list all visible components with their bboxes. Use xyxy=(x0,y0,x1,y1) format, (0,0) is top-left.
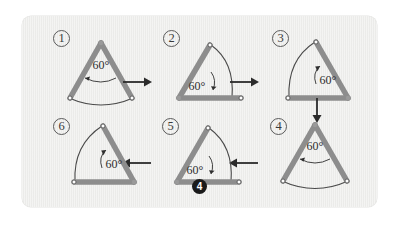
step-6-upper-tip xyxy=(101,124,105,128)
step-6-arc xyxy=(75,126,102,182)
figure-number-badge: 4 xyxy=(192,179,207,194)
step-2-lower-tip xyxy=(239,96,243,100)
step-1-angle-text: 60° xyxy=(93,58,110,72)
step-5-sweep-arrowhead xyxy=(209,170,215,174)
step-3-hinge xyxy=(346,96,350,100)
step-1-arc xyxy=(69,98,133,105)
step-1-left-tip xyxy=(68,96,72,100)
step-6-upper-leg xyxy=(103,126,134,182)
step-1-diagram: 1 60° xyxy=(46,28,156,114)
step-5-arc xyxy=(209,128,231,182)
step-6-diagram: 6 60° xyxy=(46,116,156,202)
step-2-sweep-arrowhead xyxy=(211,86,217,90)
step-4-right-tip xyxy=(345,179,349,183)
step-5-upper-tip xyxy=(206,126,210,130)
arrow-1-to-2 xyxy=(120,75,154,89)
step-3-upper-leg xyxy=(316,42,348,98)
step-1-hinge xyxy=(99,41,103,45)
step-1-sweep-arc xyxy=(85,78,116,82)
step-5-lower-tip xyxy=(237,180,241,184)
step-6-hinge xyxy=(132,180,136,184)
step-4-hinge xyxy=(313,123,317,127)
step-6-label: 6 xyxy=(53,118,70,135)
step-5-label: 5 xyxy=(162,118,179,135)
step-3-arc xyxy=(289,42,315,98)
step-6-angle-text: 60° xyxy=(106,157,123,171)
step-3-label: 3 xyxy=(272,30,289,47)
step-4-left-tip xyxy=(281,179,285,183)
step-4-left-leg xyxy=(283,125,315,181)
figure-root: 1 60° xyxy=(0,0,404,227)
step-2-diagram: 2 60° xyxy=(153,28,263,114)
step-4-sweep-arc xyxy=(300,159,330,163)
step-1-label: 1 xyxy=(53,30,70,47)
step-4-right-leg xyxy=(315,125,347,181)
step-2-angle-text: 60° xyxy=(189,79,206,93)
step-5-angle-text: 60° xyxy=(187,163,204,177)
step-2-label: 2 xyxy=(163,30,180,47)
arrow-2-to-3 xyxy=(227,75,261,89)
step-1-right-tip xyxy=(130,96,134,100)
step-4-angle-text: 60° xyxy=(307,139,324,153)
step-2-arc xyxy=(211,45,232,98)
step-4-label: 4 xyxy=(270,118,287,135)
step-3-lower-tip xyxy=(286,96,290,100)
step-4-arc xyxy=(282,181,348,189)
step-4-diagram: 4 60° xyxy=(260,116,370,202)
step-5-hinge xyxy=(175,180,179,184)
step-2-hinge xyxy=(177,96,181,100)
step-3-upper-tip xyxy=(314,40,318,44)
step-6-lower-tip xyxy=(72,180,76,184)
step-2-upper-tip xyxy=(208,43,212,47)
step-5-diagram: 5 60° xyxy=(153,116,263,202)
step-3-angle-text: 60° xyxy=(320,73,337,87)
figure-panel: 1 60° xyxy=(22,16,377,207)
